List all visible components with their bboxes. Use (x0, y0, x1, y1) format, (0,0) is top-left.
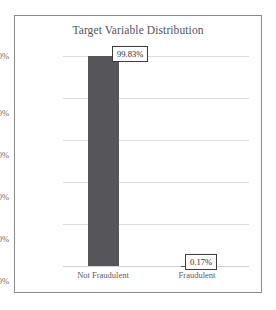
ytick-label-60: 60% (0, 150, 9, 160)
xtick-label-fraudulent: Fraudulent (179, 270, 216, 280)
chart-title: Target Variable Distribution (15, 24, 261, 36)
plot-area (63, 56, 249, 266)
gridline-0 (63, 266, 249, 267)
ytick-label-100: 100% (0, 51, 9, 61)
xtick-label-not-fraudulent: Not Fraudulent (77, 270, 129, 280)
ytick-label-80: 80% (0, 108, 9, 118)
ytick-label-0: 0% (0, 276, 9, 286)
ytick-label-40: 40% (0, 192, 9, 202)
bar-not-fraudulent[interactable] (88, 56, 119, 266)
value-label-fraudulent: 0.17% (185, 254, 217, 270)
chart-figure: Target Variable Distribution 0% 20% 40% … (14, 15, 262, 293)
ytick-label-20: 20% (0, 234, 9, 244)
value-label-not-fraudulent: 99.83% (112, 46, 148, 62)
